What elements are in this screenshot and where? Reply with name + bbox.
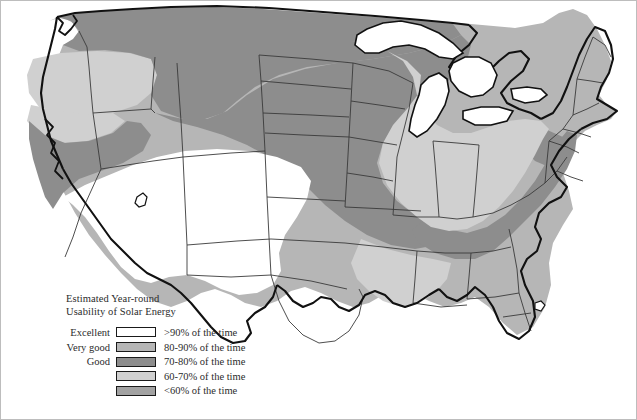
legend-category: Excellent	[53, 327, 116, 338]
legend-description: 80-90% of the time	[156, 342, 245, 353]
legend-row: Very good 80-90% of the time	[53, 340, 303, 355]
legend-swatch-60-70	[116, 371, 156, 381]
legend-row: <60% of the time	[53, 384, 303, 399]
legend-description: <60% of the time	[156, 385, 237, 396]
legend-category: Very good	[53, 342, 116, 353]
legend-row: Excellent >90% of the time	[53, 325, 303, 340]
legend-title: Estimated Year-round Usability of Solar …	[66, 293, 303, 318]
legend-category: Good	[53, 356, 116, 367]
legend-swatch-under-60	[116, 386, 156, 396]
legend-row: 60-70% of the time	[53, 369, 303, 384]
legend-row: Good 70-80% of the time	[53, 354, 303, 369]
legend-description: 60-70% of the time	[156, 371, 245, 382]
legend: Estimated Year-round Usability of Solar …	[53, 293, 303, 398]
legend-swatch-excellent	[116, 327, 156, 337]
zone-fills	[27, 6, 617, 335]
legend-swatch-good	[116, 357, 156, 367]
legend-swatch-very-good	[116, 342, 156, 352]
legend-description: 70-80% of the time	[156, 356, 245, 367]
legend-rows: Excellent >90% of the time Very good 80-…	[53, 325, 303, 398]
legend-title-line2: Usability of Solar Energy	[66, 306, 303, 319]
legend-description: >90% of the time	[156, 327, 237, 338]
legend-title-line1: Estimated Year-round	[66, 293, 303, 306]
solar-usability-map-figure: Estimated Year-round Usability of Solar …	[0, 0, 637, 420]
